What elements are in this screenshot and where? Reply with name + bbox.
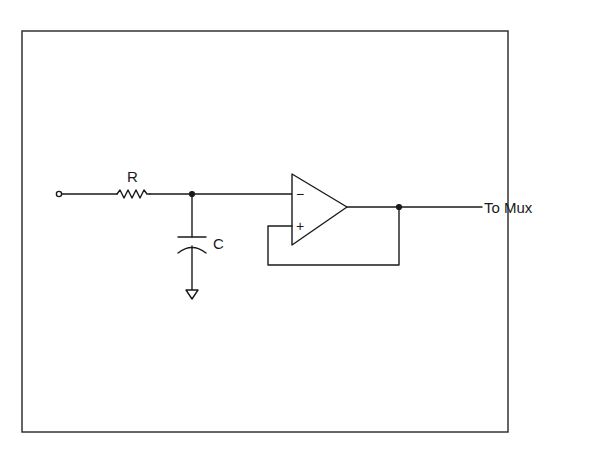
input-terminal [56, 191, 61, 196]
opamp-symbol [292, 174, 347, 245]
output-label: To Mux [484, 199, 533, 216]
resistor-symbol [117, 190, 150, 198]
circuit-diagram: − + R C To Mux [0, 0, 595, 449]
resistor-label: R [127, 168, 138, 185]
capacitor-label: C [213, 235, 224, 252]
ground-symbol [186, 290, 198, 299]
opamp-noninverting-symbol: + [296, 218, 304, 234]
diagram-frame [22, 31, 508, 432]
opamp-inverting-symbol: − [296, 186, 304, 202]
